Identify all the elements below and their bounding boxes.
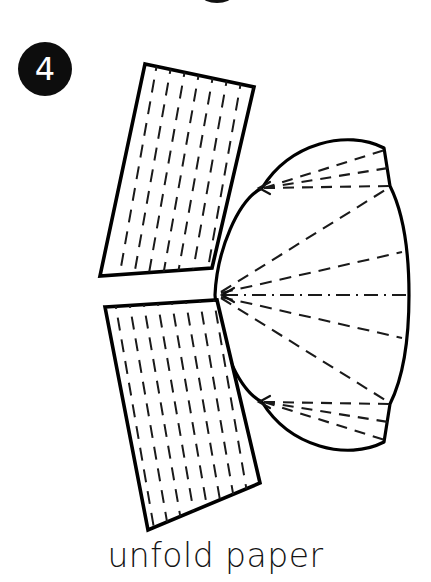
pleated-fan-body [215, 140, 411, 451]
step-badge-number: 4 [35, 50, 55, 88]
origami-step-illustration: 4 [0, 0, 431, 582]
step-number-badge: 4 [18, 42, 72, 96]
step-caption: unfold paper [0, 536, 431, 575]
cut-off-ellipse-fragment [202, 0, 232, 3]
figure-page: 4 unfold paper [0, 0, 431, 582]
